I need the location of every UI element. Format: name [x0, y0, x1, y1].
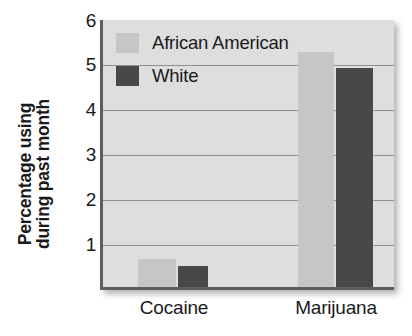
- y-tick-label: 3: [72, 144, 96, 166]
- legend-swatch-icon-african-american: [116, 33, 139, 53]
- bar-marijuana-white: [336, 68, 373, 288]
- bar-cocaine-african-american: [138, 259, 176, 288]
- y-tick-label: 1: [72, 234, 96, 256]
- chart-legend: African American White: [116, 26, 289, 92]
- y-tick-label: 4: [72, 99, 96, 121]
- legend-item-white: White: [116, 59, 289, 92]
- y-axis-title-line-2: during past month: [35, 99, 53, 249]
- legend-label-african-american: African American: [152, 32, 289, 54]
- x-tick-label-cocaine: Cocaine: [140, 297, 208, 319]
- bar-marijuana-african-american: [298, 52, 334, 288]
- legend-swatch-icon-white: [116, 66, 139, 86]
- bar-chart-figure: Percentage using during past month 1 2 3…: [0, 0, 412, 336]
- y-tick-label: 6: [72, 10, 96, 32]
- bar-cocaine-white: [178, 266, 208, 288]
- x-axis-tick-labels: Cocaine Marijuana: [100, 297, 394, 327]
- x-tick-label-marijuana: Marijuana: [295, 297, 377, 319]
- plot-area: African American White: [100, 20, 394, 290]
- y-tick-label: 2: [72, 189, 96, 211]
- legend-item-african-american: African American: [116, 26, 289, 59]
- y-axis-title: Percentage using during past month: [9, 44, 61, 304]
- y-axis-tick-labels: 1 2 3 4 5 6: [72, 20, 96, 290]
- legend-label-white: White: [152, 65, 198, 87]
- y-tick-label: 5: [72, 54, 96, 76]
